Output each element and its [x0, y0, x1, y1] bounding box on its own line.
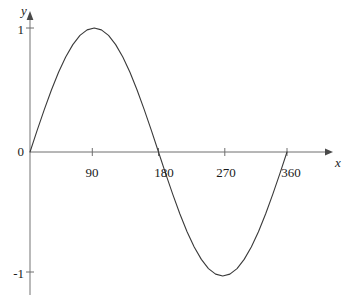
y-tick-label-neg1: -1 — [6, 267, 24, 280]
x-axis-arrow-icon — [325, 148, 333, 155]
sine-graph-figure: 90 180 270 360 1 0 -1 y x — [0, 0, 346, 300]
x-axis-label: x — [335, 156, 341, 169]
x-tick-label-360: 360 — [281, 166, 301, 179]
x-tick-label-270: 270 — [216, 166, 236, 179]
y-axis-label: y — [21, 4, 27, 17]
y-axis-arrow-icon — [27, 11, 34, 20]
x-tick-label-180: 180 — [154, 166, 174, 179]
x-tick-label-90: 90 — [86, 166, 99, 179]
y-tick-label-0: 0 — [10, 145, 24, 158]
plot-canvas — [0, 0, 346, 300]
y-tick-label-1: 1 — [12, 23, 24, 36]
